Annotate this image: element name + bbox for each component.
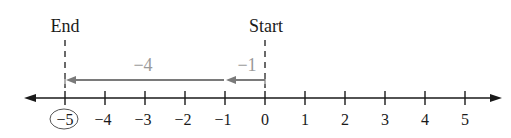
start-label: Start	[249, 16, 283, 36]
tick-label: 3	[381, 111, 389, 128]
tick-label: 2	[341, 111, 349, 128]
tick-label: 5	[461, 111, 469, 128]
tick-label: −4	[94, 111, 111, 128]
tick-label: 0	[261, 111, 269, 128]
number-line-axis	[24, 94, 502, 102]
left-arrowhead-icon	[24, 94, 36, 102]
tick-label: −5	[56, 111, 73, 128]
arrowhead-icon	[226, 76, 236, 84]
tick-label: −3	[134, 111, 151, 128]
end-label: End	[51, 16, 80, 36]
tick-label: −1	[214, 111, 231, 128]
arrowhead-icon	[66, 76, 76, 84]
tick-labels: −5 −4 −3 −2 −1 0 1 2 3 4 5	[56, 111, 469, 128]
move-label-minus-4: −4	[133, 55, 152, 75]
move-label-minus-1: −1	[237, 55, 256, 75]
tick-label: −2	[174, 111, 191, 128]
move-arrows	[65, 74, 265, 86]
tick-label: 1	[301, 111, 309, 128]
tick-label: 4	[421, 111, 429, 128]
right-arrowhead-icon	[490, 94, 502, 102]
number-line-diagram: −5 −4 −3 −2 −1 0 1 2 3 4 5 End Start −4 …	[0, 0, 511, 138]
